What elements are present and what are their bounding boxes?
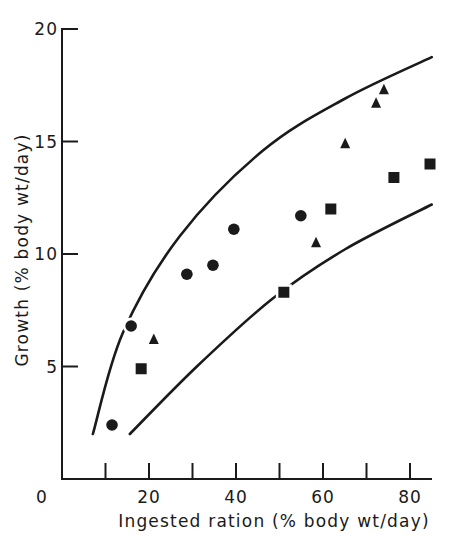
circle-marker bbox=[181, 268, 193, 280]
circle-marker bbox=[295, 210, 307, 222]
y-tick-label: 10 bbox=[34, 244, 58, 264]
y-tick-label: 20 bbox=[34, 19, 58, 39]
y-tick-label: 5 bbox=[46, 357, 58, 377]
triangle-marker bbox=[149, 334, 159, 345]
square-marker bbox=[388, 172, 399, 183]
triangle-marker bbox=[379, 84, 389, 95]
y-axis-title: Growth (% body wt/day) bbox=[12, 133, 32, 366]
y-tick-label: 15 bbox=[34, 132, 58, 152]
square-marker bbox=[325, 204, 336, 215]
data-markers bbox=[104, 84, 438, 434]
triangle-marker bbox=[340, 138, 350, 149]
x-tick-label: 0 bbox=[36, 487, 48, 507]
triangle-marker bbox=[311, 237, 321, 248]
circle-marker bbox=[228, 223, 240, 235]
y-ticks: 5101520 bbox=[34, 19, 78, 377]
x-tick-label: 60 bbox=[311, 487, 335, 507]
triangle-marker bbox=[371, 97, 381, 108]
x-tick-label: 80 bbox=[398, 487, 422, 507]
lower-bound-curve bbox=[130, 205, 432, 435]
scatter-chart: 020406080 5101520 Ingested ration (% bod… bbox=[0, 0, 450, 536]
axes bbox=[61, 28, 432, 480]
square-marker bbox=[136, 363, 147, 374]
bound-curves bbox=[93, 57, 432, 434]
x-axis-title: Ingested ration (% body wt/day) bbox=[118, 511, 430, 531]
circle-marker bbox=[106, 419, 118, 431]
square-marker bbox=[278, 287, 289, 298]
x-tick-label: 40 bbox=[224, 487, 248, 507]
square-marker bbox=[425, 159, 436, 170]
circle-marker bbox=[125, 320, 137, 332]
upper-bound-curve bbox=[93, 57, 432, 434]
x-tick-label: 20 bbox=[137, 487, 161, 507]
circle-marker bbox=[207, 259, 219, 271]
x-ticks: 020406080 bbox=[36, 463, 422, 507]
